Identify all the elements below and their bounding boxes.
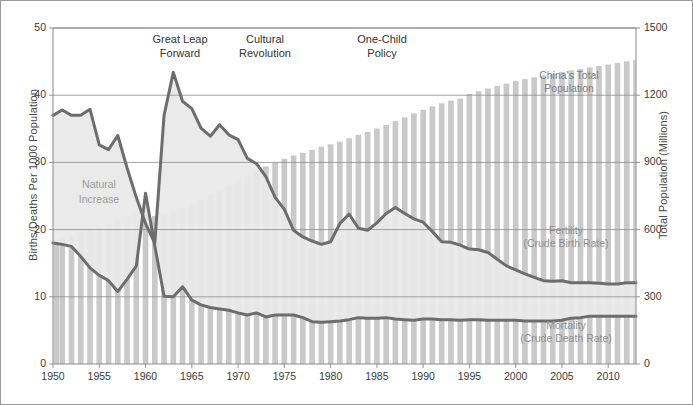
population-bar <box>54 240 60 364</box>
x-axis-tick-label: 1955 <box>79 370 119 382</box>
series-label-line-2: (Crude Birth Rate) <box>501 237 631 250</box>
y-axis-right-title: Total Population (Millions) <box>657 25 669 325</box>
x-axis-tick-label: 1975 <box>264 370 304 382</box>
x-axis-tick-label: 1985 <box>357 370 397 382</box>
y-axis-right-tick-label: 900 <box>644 155 678 167</box>
population-bar <box>143 215 149 364</box>
y-axis-left-tick-label: 10 <box>20 290 46 302</box>
annotation-line-2: Revolution <box>210 47 320 61</box>
x-axis-tick-label: 2005 <box>542 370 582 382</box>
y-axis-left-title: Births/Deaths Per 1000 Population <box>27 25 39 325</box>
population-bar <box>448 101 454 364</box>
x-axis-tick-label: 1980 <box>311 370 351 382</box>
x-axis-tick-label: 1960 <box>126 370 166 382</box>
annotation-line-1: Cultural <box>210 33 320 47</box>
annotation-one-child-policy: One-Child Policy <box>327 33 437 60</box>
series-label-line-2: Population <box>504 82 634 95</box>
y-axis-right-tick-label: 1500 <box>644 21 678 33</box>
series-label-mortality: Mortality (Crude Death Rate) <box>501 319 631 345</box>
x-axis-tick-label: 1950 <box>33 370 73 382</box>
y-axis-left-tick-label: 0 <box>20 357 46 369</box>
annotation-cultural-revolution: Cultural Revolution <box>210 33 320 60</box>
population-bar <box>69 235 75 364</box>
x-axis-tick-label: 1970 <box>218 370 258 382</box>
y-axis-right-tick-label: 600 <box>644 223 678 235</box>
annotation-line-1: One-Child <box>327 33 437 47</box>
series-label-line-1: Fertility <box>501 224 631 237</box>
y-axis-right-tick-label: 300 <box>644 290 678 302</box>
population-bar <box>476 91 482 364</box>
series-label-line-2: Increase <box>59 192 139 207</box>
population-bar <box>494 86 500 364</box>
annotation-line-2: Policy <box>327 47 437 61</box>
x-axis-tick-label: 2000 <box>496 370 536 382</box>
x-axis-tick-label: 1990 <box>403 370 443 382</box>
y-axis-left-tick-label: 20 <box>20 223 46 235</box>
population-bar <box>457 99 463 364</box>
population-bar <box>467 94 473 364</box>
x-axis-tick-label: 1965 <box>172 370 212 382</box>
series-label-line-1: Natural <box>59 177 139 192</box>
population-bar <box>633 60 635 364</box>
series-label-total-population: China's Total Population <box>504 69 634 95</box>
population-bar <box>59 238 65 364</box>
series-label-fertility: Fertility (Crude Birth Rate) <box>501 224 631 250</box>
series-label-natural-increase: Natural Increase <box>59 177 139 207</box>
x-axis-tick-label: 2010 <box>588 370 628 382</box>
population-bar <box>439 103 445 364</box>
series-label-line-1: China's Total <box>504 69 634 82</box>
y-axis-left-tick-label: 40 <box>20 88 46 100</box>
population-bar <box>485 88 491 364</box>
x-axis-tick-label: 1995 <box>449 370 489 382</box>
y-axis-left-tick-label: 30 <box>20 155 46 167</box>
series-label-line-2: (Crude Death Rate) <box>501 332 631 345</box>
y-axis-right-tick-label: 1200 <box>644 88 678 100</box>
chart-figure-frame: Births/Deaths Per 1000 Population Total … <box>0 0 693 405</box>
y-axis-right-tick-label: 0 <box>644 357 678 369</box>
series-label-line-1: Mortality <box>501 319 631 332</box>
y-axis-left-tick-label: 50 <box>20 21 46 33</box>
